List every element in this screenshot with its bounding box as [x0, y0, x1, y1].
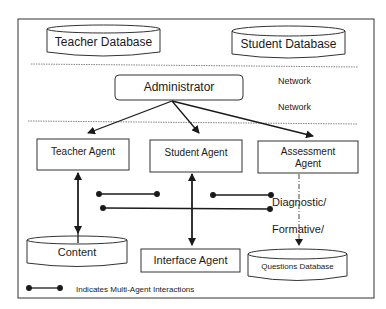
formative-label: Formative/	[272, 223, 324, 236]
multi-agent-interaction-lines	[97, 192, 274, 212]
student-agent-label: Student Agent	[150, 146, 242, 159]
teacher-agent-label: Teacher Agent	[37, 145, 129, 158]
network-separator-2	[28, 121, 357, 124]
assessment-agent-label-line2: Agent	[258, 157, 358, 170]
legend-symbol	[27, 286, 63, 291]
network-label-1: Network	[278, 75, 311, 88]
questions-database-label: Questions Database	[248, 260, 347, 273]
network-label-2: Network	[278, 101, 311, 114]
legend-text: Indicates Multi-Agent Interactions	[76, 283, 194, 296]
network-separator-1	[31, 64, 358, 67]
diagnostic-label: Diagnostic/	[272, 196, 326, 209]
content-label: Content	[27, 246, 127, 259]
teacher-database-label: Teacher Database	[47, 36, 160, 49]
interface-agent-label: Interface Agent	[141, 254, 240, 267]
student-database-label: Student Database	[232, 38, 345, 51]
administrator-label: Administrator	[115, 81, 243, 94]
